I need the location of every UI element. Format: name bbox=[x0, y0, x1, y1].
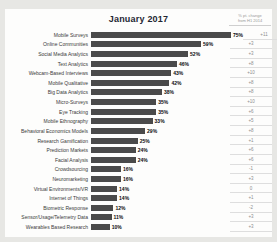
bar bbox=[91, 166, 121, 172]
change-value: +6 bbox=[230, 145, 272, 155]
row-label: Text Analytics bbox=[5, 61, 91, 67]
change-value: +3 bbox=[230, 222, 272, 232]
chart-row: Webcam-Based Interviews 43% +10 bbox=[5, 68, 272, 78]
bar bbox=[91, 99, 156, 105]
bar-value: 16% bbox=[123, 166, 133, 172]
row-label: Eye Tracking bbox=[5, 109, 91, 115]
bar-value: 29% bbox=[147, 128, 157, 134]
chart-row: Eye Tracking 35% +6 bbox=[5, 107, 272, 117]
row-label: Sensor/Usage/Telemetry Data bbox=[5, 214, 91, 220]
bar-value: 35% bbox=[158, 99, 168, 105]
bar bbox=[91, 32, 231, 38]
chart-row: Facial Analysis 24% +6 bbox=[5, 155, 272, 165]
chart-row: Neuromarketing 16% +3 bbox=[5, 174, 272, 184]
bar bbox=[91, 186, 117, 192]
row-label: Mobile Ethnography bbox=[5, 118, 91, 124]
chart-row: Mobile Qualitative 42% +8 bbox=[5, 78, 272, 88]
bar-value: 42% bbox=[171, 80, 181, 86]
row-label: Neuromarketing bbox=[5, 176, 91, 182]
row-label: Prediction Markets bbox=[5, 147, 91, 153]
bar bbox=[91, 214, 112, 220]
bar-value: 16% bbox=[123, 176, 133, 182]
change-value: -2 bbox=[230, 203, 272, 213]
bar bbox=[91, 109, 156, 115]
change-value: +8 bbox=[230, 59, 272, 69]
row-label: Social Media Analytics bbox=[5, 51, 91, 57]
row-label: Big Data Analytics bbox=[5, 89, 91, 95]
chart-row: Crowdsourcing 16% -1 bbox=[5, 165, 272, 175]
change-value: +8 bbox=[230, 78, 272, 88]
bar bbox=[91, 176, 121, 182]
bar-value: 25% bbox=[140, 138, 150, 144]
chart-row: Behavioral Economics Models 29% +8 bbox=[5, 126, 272, 136]
bar bbox=[91, 147, 136, 153]
change-value: +10 bbox=[230, 68, 272, 78]
chart-panel: January 2017 % pt. change from H1 2014 M… bbox=[5, 9, 272, 237]
bar bbox=[91, 51, 188, 57]
chart-row: Text Analytics 46% +8 bbox=[5, 59, 272, 69]
bar-value: 75% bbox=[233, 32, 243, 38]
row-label: Webcam-Based Interviews bbox=[5, 70, 91, 76]
change-column-header-line2: from H1 2014 bbox=[229, 18, 271, 23]
row-label: Online Communities bbox=[5, 41, 91, 47]
chart-row: Big Data Analytics 38% +8 bbox=[5, 88, 272, 98]
row-label: Facial Analysis bbox=[5, 157, 91, 163]
bar bbox=[91, 157, 136, 163]
chart-row: Research Gamification 25% +1 bbox=[5, 136, 272, 146]
change-value: 0 bbox=[230, 184, 272, 194]
change-value: +10 bbox=[230, 97, 272, 107]
change-value: +8 bbox=[230, 88, 272, 98]
change-value: +1 bbox=[230, 136, 272, 146]
row-label: Wearables Based Research bbox=[5, 224, 91, 230]
row-label: Virtual Environments/VR bbox=[5, 186, 91, 192]
bar bbox=[91, 70, 171, 76]
bar-value: 35% bbox=[158, 109, 168, 115]
change-column-header: % pt. change from H1 2014 bbox=[229, 13, 271, 26]
change-value: +3 bbox=[230, 49, 272, 59]
bar bbox=[91, 118, 153, 124]
change-value: +3 bbox=[230, 174, 272, 184]
chart-row: Sensor/Usage/Telemetry Data 11% +3 bbox=[5, 213, 272, 223]
bar-value: 12% bbox=[115, 205, 125, 211]
bar bbox=[91, 89, 162, 95]
chart-row: Wearables Based Research 10% +3 bbox=[5, 222, 272, 232]
bar-value: 24% bbox=[138, 147, 148, 153]
chart-row: Mobile Ethnography 33% +5 bbox=[5, 116, 272, 126]
bar-value: 14% bbox=[119, 186, 129, 192]
chart-row: Internet of Things 14% +1 bbox=[5, 193, 272, 203]
change-value: +3 bbox=[230, 213, 272, 223]
bar bbox=[91, 61, 177, 67]
bar-value: 24% bbox=[138, 157, 148, 163]
bar-value: 52% bbox=[190, 51, 200, 57]
bar-value: 33% bbox=[155, 118, 165, 124]
row-label: Biometric Response bbox=[5, 205, 91, 211]
row-label: Crowdsourcing bbox=[5, 166, 91, 172]
bar bbox=[91, 195, 117, 201]
bar-value: 10% bbox=[112, 224, 122, 230]
change-value: +8 bbox=[230, 126, 272, 136]
bar-value: 46% bbox=[179, 61, 189, 67]
bar bbox=[91, 224, 110, 230]
chart-row: Mobile Surveys 75% +11 bbox=[5, 30, 272, 40]
bar bbox=[91, 138, 138, 144]
bar-value: 14% bbox=[119, 195, 129, 201]
row-label: Internet of Things bbox=[5, 195, 91, 201]
row-label: Mobile Qualitative bbox=[5, 80, 91, 86]
chart-row: Micro-Surveys 35% +10 bbox=[5, 97, 272, 107]
row-label: Micro-Surveys bbox=[5, 99, 91, 105]
chart-row: Virtual Environments/VR 14% 0 bbox=[5, 184, 272, 194]
change-value: +6 bbox=[230, 155, 272, 165]
change-value: -1 bbox=[230, 165, 272, 175]
chart-row: Prediction Markets 24% +6 bbox=[5, 145, 272, 155]
chart-rows: Mobile Surveys 75% +11 Online Communitie… bbox=[5, 30, 272, 232]
bar bbox=[91, 80, 169, 86]
change-value: +3 bbox=[230, 40, 272, 50]
bar bbox=[91, 128, 145, 134]
row-label: Research Gamification bbox=[5, 138, 91, 144]
chart-row: Social Media Analytics 52% +3 bbox=[5, 49, 272, 59]
change-value: +11 bbox=[243, 30, 277, 40]
chart-row: Biometric Response 12% -2 bbox=[5, 203, 272, 213]
change-value: +6 bbox=[230, 107, 272, 117]
row-label: Mobile Surveys bbox=[5, 32, 91, 38]
bar-value: 38% bbox=[164, 89, 174, 95]
